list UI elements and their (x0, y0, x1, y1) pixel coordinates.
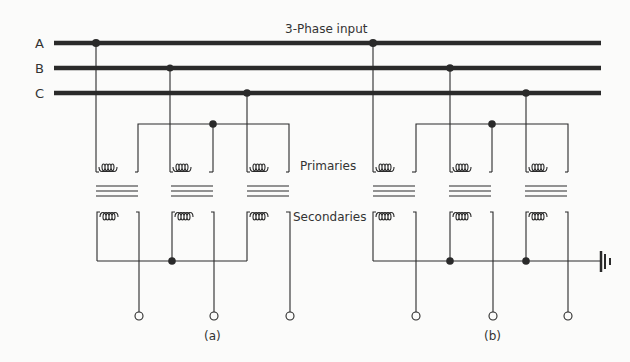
earth-ground-icon (601, 251, 610, 272)
bus-bars (54, 43, 601, 93)
subfigure-a (96, 43, 290, 312)
subfigure-b (373, 43, 600, 312)
subfigure-a-label: (a) (204, 330, 221, 342)
bus-label-c: C (35, 87, 44, 100)
diagram-canvas: 3-Phase input A B C Primaries Secondarie… (0, 0, 630, 362)
subfigure-b-label: (b) (484, 330, 501, 342)
transformer-connection-diagram (0, 0, 630, 362)
bus-label-a: A (35, 37, 44, 50)
junction-dots (92, 39, 530, 265)
output-terminals (135, 312, 572, 320)
bus-label-b: B (35, 62, 44, 75)
secondaries-label: Secondaries (293, 211, 366, 223)
primaries-label: Primaries (300, 160, 356, 172)
diagram-title: 3-Phase input (285, 23, 367, 35)
